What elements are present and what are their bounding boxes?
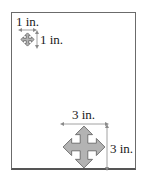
- small-move-arrows-icon: [21, 33, 34, 46]
- large-move-arrows-icon: [63, 126, 105, 168]
- large-height-label: 3 in.: [110, 142, 133, 155]
- small-width-label: 1 in.: [16, 15, 39, 28]
- small-height-label: 1 in.: [40, 33, 63, 46]
- large-width-label: 3 in.: [72, 108, 95, 121]
